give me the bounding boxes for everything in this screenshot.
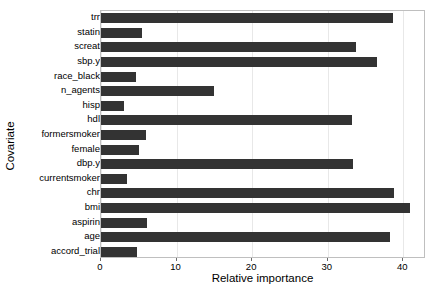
bar[interactable]: [101, 218, 147, 228]
bar-row[interactable]: [101, 40, 424, 55]
bar[interactable]: [101, 115, 352, 125]
bar-row[interactable]: [101, 69, 424, 84]
bar[interactable]: [101, 42, 356, 52]
bar[interactable]: [101, 72, 136, 82]
bar[interactable]: [101, 232, 390, 242]
bar-row[interactable]: [101, 84, 424, 99]
bar[interactable]: [101, 159, 353, 169]
plot-area: [101, 11, 424, 257]
x-axis-tick-label: 30: [321, 261, 332, 272]
relative-importance-bar-chart: Covariate trrstatinscreatsbp.yrace_black…: [0, 0, 445, 292]
bar-row[interactable]: [101, 157, 424, 172]
bar[interactable]: [101, 130, 146, 140]
bar[interactable]: [101, 28, 142, 38]
bar[interactable]: [101, 203, 410, 213]
bar[interactable]: [101, 174, 127, 184]
bar[interactable]: [101, 188, 394, 198]
bar-row[interactable]: [101, 11, 424, 26]
bar[interactable]: [101, 101, 124, 111]
bar-row[interactable]: [101, 186, 424, 201]
bar-row[interactable]: [101, 215, 424, 230]
bar-row[interactable]: [101, 26, 424, 41]
bar[interactable]: [101, 247, 137, 257]
bar[interactable]: [101, 145, 139, 155]
bar[interactable]: [101, 57, 377, 67]
bar-row[interactable]: [101, 230, 424, 245]
x-axis-tick-label: 20: [246, 261, 257, 272]
bar-row[interactable]: [101, 171, 424, 186]
x-axis-tick-label: 0: [97, 261, 102, 272]
bar-row[interactable]: [101, 99, 424, 114]
bar[interactable]: [101, 86, 214, 96]
x-axis-tick-label: 40: [397, 261, 408, 272]
bar-row[interactable]: [101, 128, 424, 143]
x-axis-title: Relative importance: [100, 272, 425, 284]
bar-row[interactable]: [101, 142, 424, 157]
plot-panel: [100, 10, 425, 258]
x-axis-ticks: 010203040: [100, 258, 425, 272]
x-axis-tick-label: 10: [170, 261, 181, 272]
y-axis-title: Covariate: [2, 0, 18, 292]
bar-row[interactable]: [101, 55, 424, 70]
bar-row[interactable]: [101, 201, 424, 216]
bar[interactable]: [101, 13, 393, 23]
bar-row[interactable]: [101, 113, 424, 128]
bar-row[interactable]: [101, 244, 424, 259]
